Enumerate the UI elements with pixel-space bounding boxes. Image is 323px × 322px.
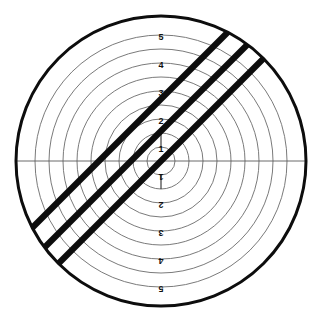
upper-label-2: 2 — [158, 116, 163, 126]
lower-label-3: 3 — [158, 228, 163, 238]
lower-label-4: 4 — [158, 256, 163, 266]
target-figure: 1 2 3 4 5 1 2 3 4 5 — [0, 0, 323, 322]
lower-label-5: 5 — [158, 284, 163, 294]
upper-label-5: 5 — [158, 32, 163, 42]
upper-label-1: 1 — [158, 144, 163, 154]
lower-label-2: 2 — [158, 200, 163, 210]
upper-label-4: 4 — [158, 60, 163, 70]
target-diagram-svg: 1 2 3 4 5 1 2 3 4 5 — [0, 0, 323, 322]
lower-label-1: 1 — [158, 172, 163, 182]
